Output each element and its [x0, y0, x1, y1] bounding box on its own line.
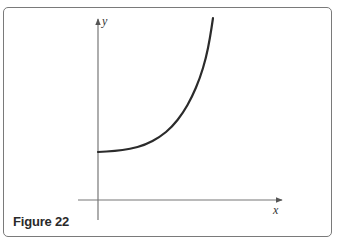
chart-canvas	[0, 0, 340, 243]
x-axis-label: x	[273, 203, 278, 218]
figure-caption: Figure 22	[13, 214, 69, 229]
exponential-curve	[98, 18, 213, 152]
y-axis-label: y	[102, 14, 107, 29]
